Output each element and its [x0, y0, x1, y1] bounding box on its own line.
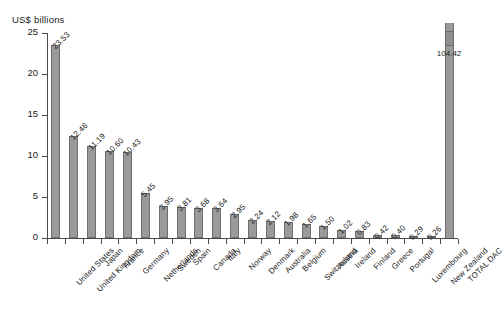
value-label-united-states: 23.53: [51, 30, 72, 51]
x-tick-23: [458, 239, 459, 244]
x-tick-19: [387, 239, 388, 244]
bar-france: [105, 151, 114, 238]
y-tick-15: 15: [42, 115, 47, 116]
y-tick-label-25: 25: [27, 26, 38, 37]
bar-germany: [123, 152, 132, 238]
value-label-canada: 3.68: [194, 196, 212, 214]
value-label-japan: 11.19: [86, 132, 106, 152]
y-axis-line: [47, 33, 48, 239]
x-tick-3: [101, 239, 102, 244]
value-label-belgium: 1.98: [283, 210, 301, 228]
value-label-france: 10.60: [104, 136, 125, 157]
x-tick-12: [261, 239, 262, 244]
x-tick-0: [47, 239, 48, 244]
x-tick-8: [190, 239, 191, 244]
value-label-austria: 1.50: [319, 214, 337, 232]
x-tick-7: [172, 239, 173, 244]
total-dac-value-label: 104.42: [419, 49, 479, 58]
total-dac-broken-bar-stub: [445, 31, 454, 46]
value-label-sweden: 3.95: [158, 194, 176, 212]
x-tick-2: [83, 239, 84, 244]
x-tick-9: [208, 239, 209, 244]
value-label-united-kingdom: 12.46: [68, 121, 89, 142]
x-tick-17: [351, 239, 352, 244]
y-tick-label-15: 15: [27, 108, 38, 119]
value-label-ireland: 1.02: [336, 218, 354, 236]
x-tick-10: [226, 239, 227, 244]
x-tick-4: [118, 239, 119, 244]
x-tick-22: [440, 239, 441, 244]
y-tick-label-5: 5: [33, 190, 38, 201]
y-axis-title: US$ billions: [12, 14, 65, 25]
y-tick-label-20: 20: [27, 67, 38, 78]
x-tick-14: [297, 239, 298, 244]
y-tick-25: 25: [42, 33, 47, 34]
x-tick-5: [136, 239, 137, 244]
x-tick-18: [369, 239, 370, 244]
x-tick-15: [315, 239, 316, 244]
value-label-spain: 3.81: [176, 195, 194, 213]
y-tick-label-0: 0: [33, 231, 38, 242]
x-tick-6: [154, 239, 155, 244]
bar-united-kingdom: [69, 136, 78, 238]
plot-area: 0510152025 23.5312.4611.1910.6010.435.45…: [47, 33, 458, 238]
bar-netherlands: [141, 193, 150, 238]
y-tick-label-10: 10: [27, 149, 38, 160]
y-tick-5: 5: [42, 197, 47, 198]
bar-united-states: [51, 45, 60, 238]
y-tick-20: 20: [42, 74, 47, 75]
x-tick-21: [422, 239, 423, 244]
x-tick-20: [404, 239, 405, 244]
x-tick-1: [65, 239, 66, 244]
x-tick-11: [244, 239, 245, 244]
value-label-australia: 2.12: [265, 209, 283, 227]
bar-japan: [87, 146, 96, 238]
x-tick-16: [333, 239, 334, 244]
y-tick-10: 10: [42, 156, 47, 157]
x-tick-13: [279, 239, 280, 244]
